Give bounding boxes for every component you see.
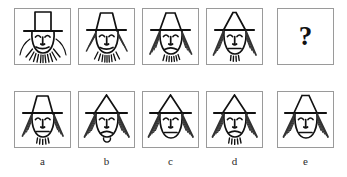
right-eye xyxy=(237,35,242,37)
left-eye xyxy=(100,35,105,37)
options-row xyxy=(0,91,347,151)
nose xyxy=(41,120,45,128)
hat-crown xyxy=(294,96,318,115)
hat-crown xyxy=(94,95,119,114)
matrix-reasoning-puzzle: ? xyxy=(0,0,347,177)
nose xyxy=(169,120,173,128)
mouth xyxy=(165,48,178,50)
right-eye xyxy=(45,118,50,120)
face-figure-a xyxy=(15,92,70,147)
option-cell-a[interactable] xyxy=(14,91,71,148)
left-eye xyxy=(228,118,233,120)
sequence-row: ? xyxy=(0,8,347,68)
face-figure-e xyxy=(278,92,333,147)
left-eye xyxy=(36,118,41,120)
face-figure-d xyxy=(207,92,262,147)
beard-tuft xyxy=(103,138,110,142)
option-cell-d[interactable] xyxy=(206,91,263,148)
left-eye xyxy=(164,35,169,37)
option-label-d: d xyxy=(206,155,263,167)
right-eye xyxy=(173,118,178,120)
mouth xyxy=(101,131,113,133)
face-figure-3 xyxy=(143,9,198,64)
nose xyxy=(105,37,109,45)
sequence-cell-1[interactable] xyxy=(14,8,71,65)
option-label-b: b xyxy=(78,155,135,167)
beard-tufts xyxy=(231,56,240,62)
hat-crown xyxy=(35,12,51,31)
nose xyxy=(233,37,237,45)
left-eye xyxy=(299,118,304,120)
hat-crown xyxy=(32,96,53,114)
beard-tufts xyxy=(37,138,49,144)
beard-tufts xyxy=(229,138,241,144)
hat-crown xyxy=(96,13,117,31)
option-labels: a b c d e xyxy=(0,155,347,173)
right-eye xyxy=(109,118,114,120)
right-eye xyxy=(45,36,50,38)
sequence-cell-4[interactable] xyxy=(206,8,263,65)
nose xyxy=(41,37,45,45)
hat-crown xyxy=(222,95,247,114)
left-eye xyxy=(164,118,169,120)
sequence-cell-2[interactable] xyxy=(78,8,135,65)
sequence-cell-question[interactable]: ? xyxy=(277,8,334,65)
hat-crown xyxy=(223,13,246,32)
left-eye xyxy=(228,35,233,37)
option-label-c: c xyxy=(142,155,199,167)
option-label-e: e xyxy=(277,155,334,167)
option-cell-b[interactable] xyxy=(78,91,135,148)
face-figure-2 xyxy=(79,9,134,64)
hat-crown xyxy=(158,95,183,114)
nose xyxy=(233,120,237,128)
right-eye xyxy=(237,118,242,120)
face-figure-4 xyxy=(207,9,262,64)
face-figure-1 xyxy=(15,9,70,64)
option-cell-c[interactable] xyxy=(142,91,199,148)
nose xyxy=(169,37,173,45)
option-label-a: a xyxy=(14,155,71,167)
left-eye xyxy=(100,118,105,120)
beard-tufts xyxy=(163,55,180,62)
option-cell-e[interactable] xyxy=(277,91,334,148)
face-figure-c xyxy=(143,92,198,147)
nose xyxy=(304,120,308,128)
beard-rays xyxy=(26,49,60,63)
question-mark: ? xyxy=(278,9,333,64)
mouth xyxy=(229,131,241,133)
mouth xyxy=(36,47,49,49)
right-eye xyxy=(109,35,114,37)
mouth xyxy=(100,48,113,50)
face-figure-b xyxy=(79,92,134,147)
sequence-cell-3[interactable] xyxy=(142,8,199,65)
left-eye xyxy=(36,36,41,38)
hat-crown xyxy=(160,13,182,31)
nose xyxy=(105,120,109,128)
right-eye xyxy=(173,35,178,37)
right-eye xyxy=(308,118,313,120)
